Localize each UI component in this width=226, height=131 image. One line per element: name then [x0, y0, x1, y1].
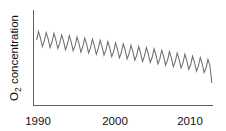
- y-axis-label-pre: O: [8, 92, 20, 101]
- chart-canvas: 1990 2000 2010 O2 concentration: [0, 0, 226, 131]
- x-tick-label-1990: 1990: [25, 115, 51, 127]
- x-tick-label-2010: 2010: [177, 115, 203, 127]
- chart-figure: 1990 2000 2010 O2 concentration: [0, 0, 226, 131]
- y-axis-label-post: concentration: [8, 15, 20, 87]
- x-tick-label-2000: 2000: [102, 115, 128, 127]
